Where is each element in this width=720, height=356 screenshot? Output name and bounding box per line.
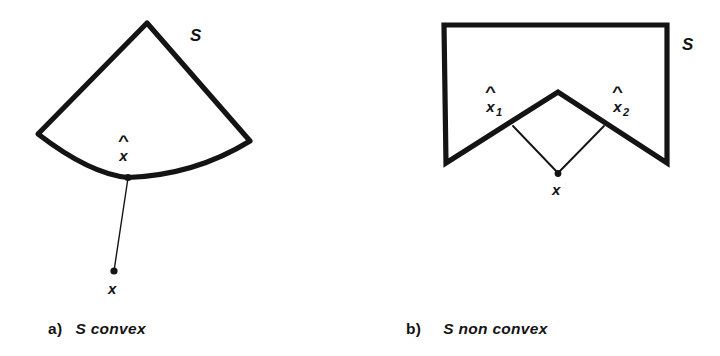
panel-non-convex: S ^ x 1 ^ x 2 x b)S non convex: [360, 0, 720, 356]
non-convex-set-drawing: [360, 0, 720, 356]
non-convex-set-outline: [444, 25, 667, 163]
hat-accent-stack-1: ^ x: [486, 89, 495, 114]
projection-point-1-subscript: 1: [496, 106, 502, 118]
projection-point-dot: [124, 174, 131, 181]
hat-accent-stack: ^ x: [119, 138, 128, 163]
figure-root: S ^ x x a)S convex S: [0, 0, 720, 356]
projection-point-2-base-letter: x: [613, 99, 622, 114]
projection-point-1-base-letter: x: [486, 99, 495, 114]
projection-point-base-letter: x: [119, 148, 128, 163]
caret-icon: ^: [485, 89, 496, 98]
caption-tag-a: a): [48, 320, 62, 337]
convex-set-drawing: [0, 0, 360, 356]
projection-point-label: ^ x: [119, 138, 128, 163]
projection-point-1-label: ^ x 1: [486, 89, 501, 114]
caption-panel-a: a)S convex: [48, 320, 146, 338]
caption-text-a: S convex: [75, 320, 145, 337]
set-label-s: S: [682, 36, 694, 53]
external-point-dot: [110, 267, 117, 274]
projection-connector-line-2: [558, 126, 604, 173]
convex-set-outline: [38, 23, 250, 178]
caption-panel-b: b)S non convex: [406, 320, 548, 338]
projection-point-2-subscript: 2: [623, 106, 629, 118]
set-label-s: S: [190, 27, 202, 44]
hat-accent-stack-2: ^ x: [613, 89, 622, 114]
external-point-dot: [555, 170, 562, 177]
caret-icon: ^: [612, 89, 623, 98]
caption-tag-b: b): [406, 320, 421, 337]
external-point-label: x: [552, 182, 561, 197]
projection-connector-line-1: [513, 126, 558, 173]
external-point-label: x: [108, 281, 117, 296]
projection-connector-line: [114, 178, 128, 271]
caption-text-b: S non convex: [443, 320, 547, 337]
caret-icon: ^: [118, 138, 129, 147]
projection-point-2-label: ^ x 2: [613, 89, 628, 114]
panel-convex: S ^ x x a)S convex: [0, 0, 360, 356]
